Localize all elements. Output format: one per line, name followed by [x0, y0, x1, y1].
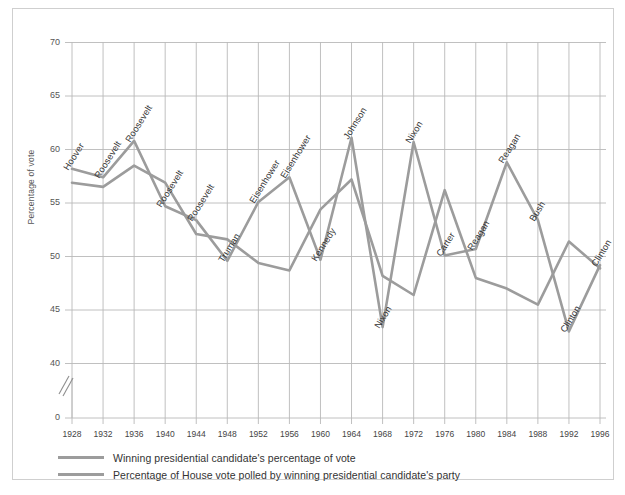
x-tick-label: 1932 — [86, 429, 120, 439]
x-tick-label: 1984 — [490, 429, 524, 439]
legend-swatch-series-2 — [58, 473, 104, 476]
x-tick-label: 1952 — [241, 429, 275, 439]
x-tick-label: 1976 — [428, 429, 462, 439]
y-tick-label: 0 — [38, 412, 60, 422]
x-tick-label: 1940 — [148, 429, 182, 439]
x-tick-label: 1996 — [583, 429, 617, 439]
legend-item: Percentage of House vote polled by winni… — [58, 466, 460, 483]
x-tick-label: 1988 — [521, 429, 555, 439]
x-tick-label: 1968 — [366, 429, 400, 439]
legend-label-series-2: Percentage of House vote polled by winni… — [113, 469, 460, 481]
y-tick-label: 50 — [38, 251, 60, 261]
x-tick-label: 1928 — [55, 429, 89, 439]
x-tick-label: 1944 — [179, 429, 213, 439]
plot-area — [0, 0, 625, 495]
x-tick-label: 1960 — [303, 429, 337, 439]
legend-label-series-1: Winning presidential candidate's percent… — [113, 452, 356, 464]
legend-swatch-series-1 — [58, 456, 104, 459]
legend-item: Winning presidential candidate's percent… — [58, 449, 460, 466]
x-tick-label: 1980 — [459, 429, 493, 439]
y-tick-label: 45 — [38, 304, 60, 314]
x-tick-label: 1972 — [397, 429, 431, 439]
y-tick-label: 70 — [38, 37, 60, 47]
legend: Winning presidential candidate's percent… — [58, 449, 460, 483]
x-tick-label: 1956 — [272, 429, 306, 439]
chart-figure: Percentage of vote 706560555045400 19281… — [0, 0, 625, 495]
x-tick-label: 1936 — [117, 429, 151, 439]
y-tick-label: 65 — [38, 90, 60, 100]
x-tick-label: 1992 — [552, 429, 586, 439]
x-tick-label: 1948 — [210, 429, 244, 439]
y-tick-label: 60 — [38, 144, 60, 154]
y-tick-label: 55 — [38, 197, 60, 207]
y-tick-label: 40 — [38, 358, 60, 368]
x-tick-label: 1964 — [335, 429, 369, 439]
